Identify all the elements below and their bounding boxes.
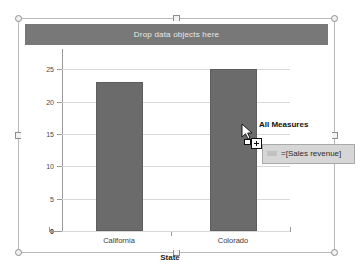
y-axis-labels: 0510152025 bbox=[21, 21, 54, 250]
bar-chart-container[interactable]: Drop data objects here 0510152025 Califo… bbox=[21, 21, 332, 250]
y-axis-tick bbox=[57, 231, 62, 232]
y-axis-tick bbox=[57, 102, 62, 103]
y-axis-tick-label: 10 bbox=[28, 163, 54, 170]
x-axis-title: State bbox=[49, 253, 291, 262]
y-axis-tick-label: 20 bbox=[28, 98, 54, 105]
resize-handle-middle-right[interactable] bbox=[331, 132, 338, 139]
formula-tooltip: =[Sales revenue] bbox=[262, 144, 355, 164]
resize-handle-top-right[interactable] bbox=[331, 15, 338, 22]
all-measures-label: All Measures bbox=[259, 120, 308, 129]
drop-data-objects-zone[interactable]: Drop data objects here bbox=[25, 24, 328, 45]
formula-tooltip-ghost-icon bbox=[267, 151, 277, 156]
gridline bbox=[62, 231, 290, 232]
x-axis-right-cap bbox=[290, 227, 291, 232]
y-axis-tick bbox=[57, 134, 62, 135]
y-axis-tick bbox=[57, 199, 62, 200]
drop-zone-label: Drop data objects here bbox=[134, 30, 219, 39]
drag-plus-icon bbox=[251, 138, 262, 149]
y-axis-tick bbox=[57, 69, 62, 70]
y-axis-tick bbox=[57, 166, 62, 167]
resize-handle-bottom-right[interactable] bbox=[331, 249, 338, 256]
bar-colorado[interactable] bbox=[210, 69, 257, 231]
formula-text: =[Sales revenue] bbox=[281, 149, 341, 158]
bar-california[interactable] bbox=[96, 82, 143, 231]
x-axis-category-label: California bbox=[62, 236, 176, 245]
resize-handle-bottom-left[interactable] bbox=[15, 249, 22, 256]
y-axis-tick-label: 15 bbox=[28, 130, 54, 137]
drag-ghost-box-icon bbox=[244, 139, 251, 145]
x-axis-left-cap bbox=[49, 227, 50, 232]
y-axis-tick-label: 5 bbox=[28, 195, 54, 202]
x-axis-category-label: Colorado bbox=[176, 236, 290, 245]
y-axis-tick-label: 25 bbox=[28, 66, 54, 73]
